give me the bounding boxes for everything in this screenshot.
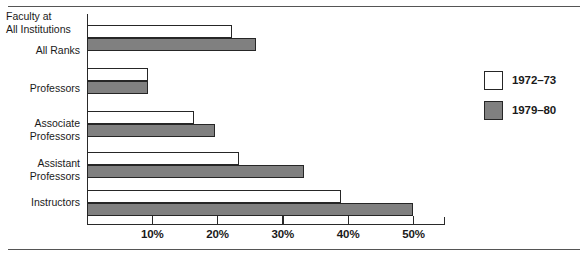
category-label-associate-professors: Associate Professors <box>4 117 80 142</box>
bar-professors-1979-80 <box>87 81 148 94</box>
top-divider-rule <box>8 6 580 7</box>
x-tick-label-4: 50% <box>402 228 425 240</box>
legend-swatch-1972-73 <box>484 71 503 90</box>
bar-all-ranks-1979-80 <box>87 38 256 51</box>
plot-area: 10% 20% 30% 40% 50% All Ranks Professors… <box>0 12 588 244</box>
x-tick-3 <box>348 216 349 225</box>
legend-label-1979-80: 1979–80 <box>512 104 556 116</box>
bar-all-ranks-1972-73 <box>87 25 232 38</box>
x-axis-end-cap <box>444 217 445 225</box>
x-tick-0 <box>152 216 153 225</box>
category-label-instructors: Instructors <box>4 196 80 209</box>
bar-instructors-1979-80 <box>87 203 413 216</box>
legend-item-1972-73: 1972–73 <box>484 68 584 92</box>
x-tick-1 <box>217 216 218 225</box>
x-tick-label-2: 30% <box>272 228 295 240</box>
bar-assistant-professors-1972-73 <box>87 152 239 165</box>
x-tick-2 <box>282 216 283 225</box>
bottom-divider-rule <box>8 249 580 250</box>
category-label-professors: Professors <box>4 82 80 95</box>
bar-assistant-professors-1979-80 <box>87 165 304 178</box>
legend-swatch-1979-80 <box>484 101 503 120</box>
x-tick-label-3: 40% <box>337 228 360 240</box>
x-tick-4 <box>413 216 414 225</box>
chart-figure: Faculty at All Institutions 10% 20% 30% … <box>0 0 588 256</box>
bar-professors-1972-73 <box>87 68 148 81</box>
x-tick-label-1: 20% <box>206 228 229 240</box>
x-axis-line <box>87 224 445 225</box>
chart-legend: 1972–73 1979–80 <box>484 68 584 128</box>
category-label-all-ranks: All Ranks <box>4 44 80 57</box>
category-label-assistant-professors: Assistant Professors <box>4 157 80 182</box>
bar-associate-professors-1972-73 <box>87 111 194 124</box>
bar-instructors-1972-73 <box>87 190 341 203</box>
legend-label-1972-73: 1972–73 <box>512 74 556 86</box>
bar-associate-professors-1979-80 <box>87 124 215 137</box>
x-tick-label-0: 10% <box>141 228 164 240</box>
legend-item-1979-80: 1979–80 <box>484 98 584 122</box>
